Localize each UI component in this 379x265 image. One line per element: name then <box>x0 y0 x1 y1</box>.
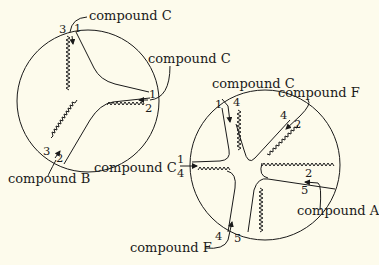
right-zigzag-e <box>262 163 334 166</box>
right-port-ur-left: 4 <box>280 108 287 122</box>
right-port-bottom-right: 5 <box>234 231 241 245</box>
left-arrow-top <box>72 36 73 44</box>
right-zigzag-w <box>198 167 230 170</box>
left-channel-smooth-upper <box>76 32 149 92</box>
left-zigzag-right <box>107 102 144 105</box>
left-port-top-right: 1 <box>74 21 81 35</box>
microfluidic-diagram: compound C compound C compound B 3 1 1 2… <box>0 0 379 265</box>
left-port-top-left: 3 <box>59 22 66 36</box>
right-port-ur-right: 2 <box>294 117 301 131</box>
right-label-bottom: compound F <box>130 240 212 255</box>
right-port-bottom-left: 4 <box>215 229 222 243</box>
left-port-right-top: 1 <box>149 87 156 101</box>
right-arrow-top <box>228 106 230 122</box>
right-channel-smooth-sw <box>227 171 235 232</box>
left-label-right: compound C <box>148 51 231 66</box>
right-leader-ne <box>300 100 309 116</box>
left-port-bottom-right: 2 <box>56 151 63 165</box>
left-port-right-bottom: 2 <box>145 101 152 115</box>
right-port-top-left: 1 <box>215 97 222 111</box>
right-port-top-right: 4 <box>233 95 240 109</box>
right-zigzag-s <box>259 188 263 232</box>
right-port-left-top: 1 <box>177 152 184 166</box>
left-label-bottom: compound B <box>8 171 90 186</box>
left-port-bottom-left: 3 <box>43 144 50 158</box>
right-port-right-bottom: 5 <box>301 183 308 197</box>
left-channel-smooth-lower <box>64 98 150 164</box>
right-zigzag-top <box>237 110 241 150</box>
right-channel-smooth-nw <box>192 108 229 162</box>
left-zigzag-lower <box>51 100 77 138</box>
left-zigzag-upper <box>66 36 70 90</box>
left-label-top: compound C <box>89 8 172 23</box>
right-port-left-bottom: 4 <box>177 166 184 180</box>
right-label-top-right: compound F <box>278 85 360 100</box>
right-port-right-top: 2 <box>305 166 312 180</box>
right-label-left: compound C <box>94 160 177 175</box>
left-device-circle <box>17 30 159 172</box>
right-label-right: compound A <box>297 203 379 218</box>
